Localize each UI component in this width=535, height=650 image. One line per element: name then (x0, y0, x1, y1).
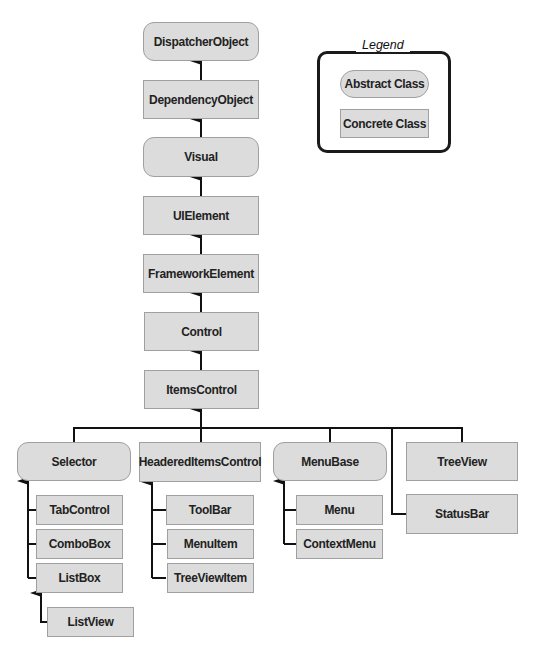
class-menubase: MenuBase (273, 442, 387, 481)
class-label: TreeView (437, 455, 486, 469)
class-menuitem: MenuItem (167, 529, 254, 559)
legend-title: Legend (356, 38, 410, 52)
class-menu: Menu (296, 495, 383, 525)
class-treeviewitem: TreeViewItem (167, 563, 254, 593)
legend-label: Concrete Class (343, 117, 426, 131)
class-label: HeaderedItemsControl (139, 455, 262, 469)
class-label: ListBox (59, 571, 101, 585)
class-label: ToolBar (189, 503, 231, 517)
class-hierarchy-diagram: DispatcherObject DependencyObject Visual… (0, 0, 535, 650)
class-label: UIElement (173, 209, 229, 223)
class-statusbar: StatusBar (406, 494, 518, 534)
class-tabcontrol: TabControl (36, 495, 123, 525)
class-listview: ListView (47, 607, 134, 637)
class-listbox: ListBox (36, 563, 123, 593)
legend-concrete-class: Concrete Class (340, 109, 429, 138)
class-label: StatusBar (435, 507, 489, 521)
class-label: ListView (67, 615, 113, 629)
class-control: Control (144, 312, 259, 351)
class-toolbar: ToolBar (166, 495, 254, 525)
class-label: ItemsControl (166, 383, 236, 397)
class-itemscontrol: ItemsControl (144, 370, 259, 409)
class-dispatcherobject: DispatcherObject (143, 22, 259, 61)
class-dependencyobject: DependencyObject (143, 80, 259, 119)
class-treeview: TreeView (406, 442, 518, 481)
class-label: TreeViewItem (174, 571, 247, 585)
legend-abstract-class: Abstract Class (340, 70, 429, 98)
class-label: TabControl (49, 503, 109, 517)
class-label: DependencyObject (149, 93, 253, 107)
class-selector: Selector (17, 442, 131, 481)
class-label: ComboBox (49, 537, 111, 551)
class-headereditemscontrol: HeaderedItemsControl (139, 442, 261, 482)
class-label: FrameworkElement (148, 267, 254, 281)
class-visual: Visual (143, 137, 259, 177)
legend-label: Abstract Class (345, 77, 425, 91)
class-label: MenuBase (301, 455, 359, 469)
class-combobox: ComboBox (36, 529, 123, 559)
class-label: MenuItem (184, 537, 238, 551)
class-label: Visual (184, 150, 217, 164)
class-label: ContextMenu (303, 537, 376, 551)
class-frameworkelement: FrameworkElement (143, 254, 259, 293)
class-label: Control (181, 325, 222, 339)
class-label: Menu (324, 503, 354, 517)
class-uielement: UIElement (143, 196, 259, 235)
class-contextmenu: ContextMenu (296, 529, 383, 559)
class-label: Selector (52, 455, 97, 469)
class-label: DispatcherObject (154, 35, 249, 49)
